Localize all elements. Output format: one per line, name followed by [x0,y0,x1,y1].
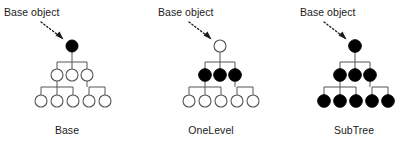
node-level3-4 [231,95,243,107]
dotted-arrow-icon [41,22,64,40]
node-level2-1 [199,69,212,82]
scope-label-subtree: SubTree [287,124,403,136]
node-level3-2 [199,95,211,107]
scope-label-onelevel: OneLevel [144,124,278,136]
node-level3-4 [366,95,379,108]
scope-panel-base: Base object [0,0,134,143]
node-level3-5 [99,95,111,107]
scope-label-base: Base [0,124,134,136]
node-level3-5 [382,95,395,108]
base-tree-graphic [0,0,134,143]
node-level2-3 [81,69,93,81]
dotted-arrow-icon [324,22,347,40]
node-level2-2 [66,69,78,81]
dotted-arrow-icon [189,22,212,40]
node-level2-2 [349,69,362,82]
scope-panel-subtree: Base object [269,0,403,143]
node-level2-2 [214,69,227,82]
node-root [349,40,362,53]
node-root [214,40,226,52]
search-scope-figure: Base object [0,0,403,143]
node-level2-1 [334,69,347,82]
node-level2-3 [229,69,242,82]
node-level3-3 [215,95,227,107]
node-level2-3 [364,69,377,82]
node-level3-4 [83,95,95,107]
node-level3-3 [67,95,79,107]
node-level3-1 [183,95,195,107]
onelevel-tree-graphic [134,0,268,143]
node-level2-1 [51,69,63,81]
node-level3-2 [51,95,63,107]
node-root [66,40,78,52]
node-level3-3 [350,95,363,108]
node-level3-5 [247,95,259,107]
node-level3-2 [334,95,347,108]
scope-panel-onelevel: Base object [134,0,268,143]
subtree-tree-graphic [269,0,403,143]
node-level3-1 [35,95,47,107]
node-level3-1 [318,95,331,108]
